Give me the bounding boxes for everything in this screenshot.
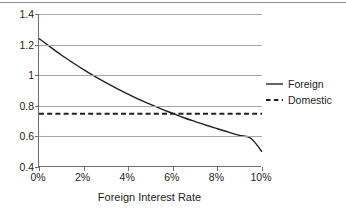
y-axis-tick (35, 45, 39, 46)
plot-area (38, 14, 261, 167)
gridline-horizontal (39, 14, 262, 15)
legend-label-foreign: Foreign (288, 79, 324, 90)
gridline-horizontal (39, 106, 262, 107)
y-axis-tick-labels: 0.40.60.811.21.4 (0, 14, 34, 167)
y-axis-tick-label: 0.4 (2, 162, 34, 172)
x-axis-tick-labels: 0%2%4%6%8%10% (38, 172, 261, 186)
chart-legend: Foreign Domestic (266, 76, 344, 108)
gridline-horizontal (39, 45, 262, 46)
y-axis-tick-label: 1.2 (2, 40, 34, 50)
gridline-horizontal (39, 136, 262, 137)
y-axis-tick-label: 1.4 (2, 9, 34, 19)
x-axis-tick-label: 0% (18, 172, 58, 183)
legend-label-domestic: Domestic (288, 95, 332, 106)
x-axis-tick-label: 8% (196, 172, 236, 183)
solid-line-swatch (266, 79, 283, 89)
y-axis-tick (35, 136, 39, 137)
y-axis-tick-label: 0.8 (2, 101, 34, 111)
gridline-horizontal (39, 75, 262, 76)
x-axis-tick-label: 4% (107, 172, 147, 183)
legend-item-foreign: Foreign (266, 76, 344, 92)
y-axis-tick (35, 106, 39, 107)
series-layer (39, 14, 262, 167)
x-axis-tick-label: 6% (152, 172, 192, 183)
legend-item-domestic: Domestic (266, 92, 344, 108)
x-axis-tick-label: 2% (63, 172, 103, 183)
y-axis-tick (35, 14, 39, 15)
top-divider-rule (0, 2, 346, 3)
y-axis-tick-label: 0.6 (2, 131, 34, 141)
y-axis-tick (35, 75, 39, 76)
x-axis-title: Foreign Interest Rate (38, 191, 261, 203)
x-axis-tick-label: 10% (241, 172, 281, 183)
y-axis-tick-label: 1 (2, 70, 34, 80)
series-line-foreign (39, 38, 262, 151)
chart-figure: 0.40.60.811.21.4 0%2%4%6%8%10% Foreign I… (0, 0, 346, 211)
dashed-line-swatch (266, 95, 283, 105)
